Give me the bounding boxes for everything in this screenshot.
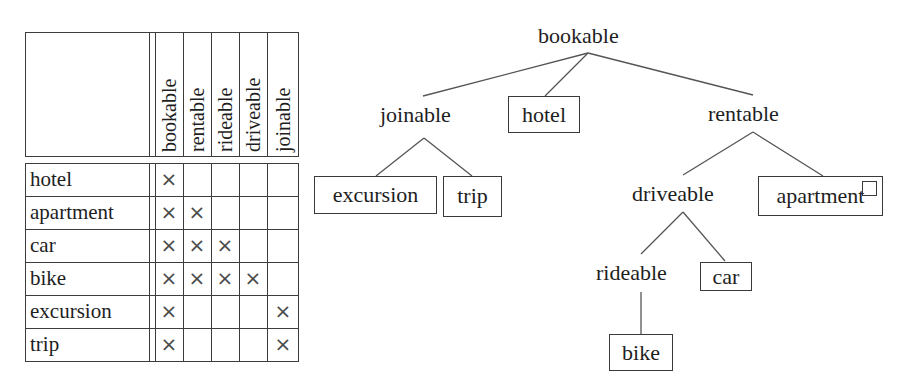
node-rideable: rideable (596, 261, 667, 285)
node-bookable: bookable (538, 24, 619, 48)
edge-joinable-trip (424, 138, 472, 176)
node-trip: trip (443, 176, 502, 217)
edge-joinable-excursion (376, 138, 424, 176)
edge-rentable-driveable (683, 132, 753, 175)
edge-rentable-apartment (753, 132, 823, 176)
overlay-square-artifact (862, 181, 877, 196)
node-joinable: joinable (380, 103, 451, 127)
edge-bookable-rentable (588, 53, 753, 95)
node-driveable: driveable (632, 182, 714, 206)
node-excursion: excursion (314, 176, 437, 214)
edge-driveable-car (683, 212, 725, 261)
node-car: car (700, 262, 752, 291)
edge-bookable-hotel (545, 53, 588, 96)
node-rentable: rentable (708, 102, 779, 126)
edge-driveable-rideable (641, 212, 683, 254)
node-hotel: hotel (508, 96, 580, 133)
edge-bookable-joinable (423, 53, 588, 96)
node-bike: bike (609, 334, 673, 371)
